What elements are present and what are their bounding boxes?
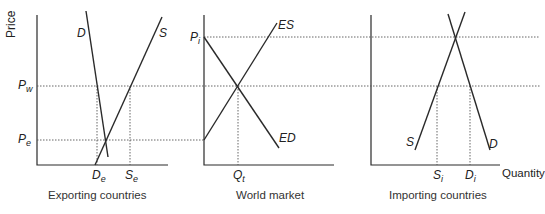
price-axis-label: Price: [4, 11, 18, 38]
axis-world: [204, 15, 334, 165]
curve-label-exporting-d: D: [77, 26, 86, 40]
curve-label-ed: ED: [279, 131, 296, 145]
guide-lines: [37, 37, 540, 165]
caption-world: World market: [236, 189, 304, 201]
price-pe-label: Pe: [18, 132, 31, 148]
price-pw-label: Pw: [18, 78, 33, 94]
curve-label-importing-d: D: [489, 137, 498, 151]
caption-importing: Importing countries: [389, 189, 487, 201]
tick-se: Se: [125, 168, 138, 184]
curve-label-es: ES: [278, 18, 294, 32]
tick-di: Di: [465, 168, 476, 184]
importing-demand-curve: [448, 14, 490, 150]
caption-exporting: Exporting countries: [48, 189, 146, 201]
curve-label-exporting-s: S: [159, 26, 167, 40]
excess-supply-curve: [204, 23, 277, 140]
axis-exporting: [37, 15, 168, 165]
curve-label-importing-s: S: [406, 135, 414, 149]
price-pi-label: Pi: [190, 30, 200, 46]
exporting-supply-curve: [95, 17, 162, 165]
axis-importing: [371, 15, 500, 165]
tick-qt: Qt: [233, 168, 245, 184]
excess-demand-curve: [204, 37, 279, 148]
quantity-axis-label: Quantity: [502, 167, 545, 179]
tick-de: De: [92, 168, 106, 184]
tick-si: Si: [433, 168, 443, 184]
importing-supply-curve: [415, 12, 465, 150]
